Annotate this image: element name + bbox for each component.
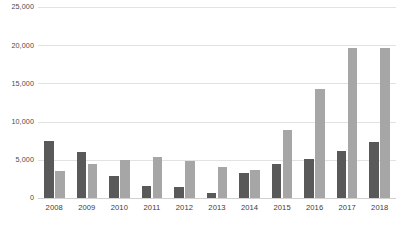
- bar: [283, 130, 293, 198]
- bar: [88, 164, 98, 198]
- bar-chart: 05,00010,00015,00020,00025,000 200820092…: [0, 0, 400, 233]
- bar-group: [266, 7, 299, 198]
- bar-group: [298, 7, 331, 198]
- bar: [142, 186, 152, 198]
- footer-caption: [40, 225, 370, 233]
- bar: [315, 89, 325, 198]
- bar: [109, 176, 119, 198]
- bar: [174, 187, 184, 198]
- x-axis-tick-label: 2013: [201, 203, 234, 213]
- bar: [185, 161, 195, 198]
- bar: [348, 48, 358, 199]
- bar: [304, 159, 314, 198]
- x-axis-tick-label: 2017: [331, 203, 364, 213]
- bar-group: [331, 7, 364, 198]
- y-axis-tick-label: 20,000: [0, 42, 34, 49]
- x-axis-tick-label: 2015: [266, 203, 299, 213]
- y-axis-tick-label: 5,000: [0, 156, 34, 163]
- x-axis-tick-label: 2011: [136, 203, 169, 213]
- y-axis-tick-label: 0: [0, 194, 34, 201]
- bar: [44, 141, 54, 198]
- bar-group: [38, 7, 71, 198]
- x-axis-tick-label: 2018: [363, 203, 396, 213]
- bar-group: [71, 7, 104, 198]
- y-axis-tick-label: 10,000: [0, 118, 34, 125]
- y-axis-tick-label: 15,000: [0, 80, 34, 87]
- x-axis-tick-label: 2010: [103, 203, 136, 213]
- axis-baseline: [38, 198, 396, 199]
- bar: [380, 48, 390, 199]
- bar: [250, 170, 260, 198]
- bars-layer: [38, 7, 396, 198]
- bar: [207, 193, 217, 198]
- y-axis-labels: 05,00010,00015,00020,00025,000: [0, 0, 34, 233]
- x-axis-tick-label: 2012: [168, 203, 201, 213]
- bar: [218, 167, 228, 198]
- bar-group: [168, 7, 201, 198]
- bar: [120, 160, 130, 198]
- x-axis-tick-label: 2008: [38, 203, 71, 213]
- y-axis-tick-label: 25,000: [0, 3, 34, 10]
- bar-group: [136, 7, 169, 198]
- bar-group: [363, 7, 396, 198]
- bar: [272, 164, 282, 198]
- x-axis-tick-label: 2014: [233, 203, 266, 213]
- bar: [337, 151, 347, 198]
- bar: [153, 157, 163, 198]
- bar-group: [201, 7, 234, 198]
- x-axis-labels: 2008200920102011201220132014201520162017…: [38, 203, 396, 217]
- bar: [369, 142, 379, 198]
- x-axis-tick-label: 2009: [71, 203, 104, 213]
- bar: [239, 173, 249, 198]
- bar: [55, 171, 65, 199]
- bar-group: [103, 7, 136, 198]
- bar-group: [233, 7, 266, 198]
- x-axis-tick-label: 2016: [298, 203, 331, 213]
- bar: [77, 152, 87, 198]
